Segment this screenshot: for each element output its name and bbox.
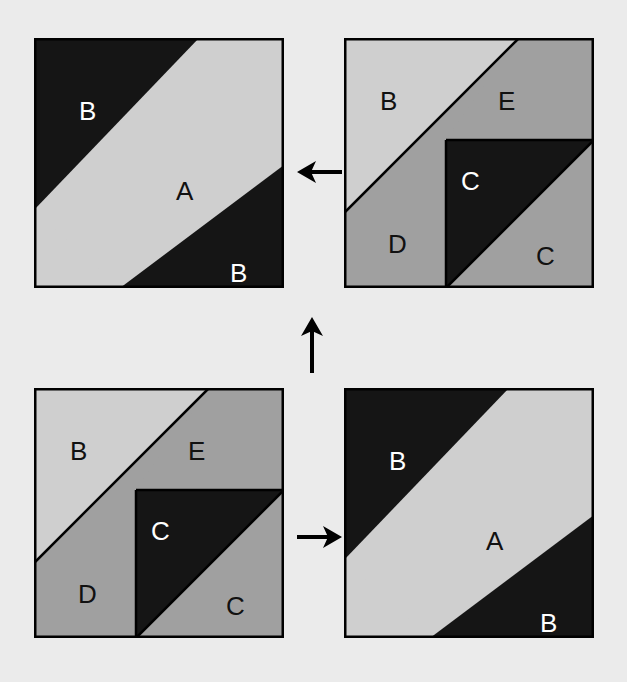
panel-top-right-label-c-2: C [461, 166, 480, 196]
panel-bottom-right-label-b-2: B [540, 608, 557, 638]
panel-top-left: BAB [34, 38, 284, 288]
figure-canvas: BABBECDCBECDCBAB [0, 0, 627, 682]
panel-top-left-label-a-1: A [176, 176, 194, 206]
arrow-left-to-right [297, 522, 342, 552]
panel-top-right-label-d-3: D [388, 229, 407, 259]
panel-top-right-label-b-0: B [380, 86, 397, 116]
arrow-bottom-to-top [297, 317, 327, 373]
panel-bottom-left-label-c-4: C [226, 591, 245, 621]
panel-bottom-left-label-d-3: D [78, 579, 97, 609]
panel-bottom-left-label-e-1: E [188, 436, 205, 466]
panel-top-right-label-e-1: E [498, 86, 515, 116]
panel-bottom-right-label-a-1: A [486, 526, 504, 556]
panel-bottom-left-label-c-2: C [151, 516, 170, 546]
panel-top-right-label-c-4: C [536, 241, 555, 271]
panel-bottom-right: BAB [344, 388, 594, 638]
arrow-right-to-left [297, 157, 342, 187]
panel-bottom-left-label-b-0: B [70, 436, 87, 466]
panel-top-left-label-b-0: B [79, 96, 96, 126]
panel-bottom-left: BECDC [34, 388, 284, 638]
panel-bottom-right-label-b-0: B [389, 446, 406, 476]
panel-top-left-label-b-2: B [230, 258, 247, 288]
panel-top-right: BECDC [344, 38, 594, 288]
